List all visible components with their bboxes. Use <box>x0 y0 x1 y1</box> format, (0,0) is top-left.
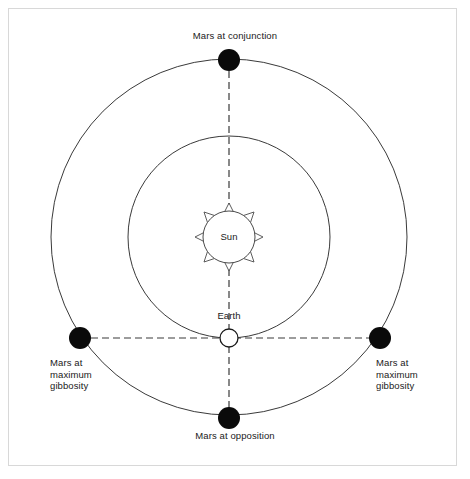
label-sun: Sun <box>200 231 258 243</box>
label-earth: Earth <box>200 310 258 322</box>
label-mars-at-maximum-gibbosity-left: Mars at maximum gibbosity <box>50 357 142 392</box>
earth-disc <box>220 329 238 347</box>
mars-gibbosity-left-disc <box>69 327 91 349</box>
mars-conjunction-disc <box>218 49 240 71</box>
label-mars-at-opposition: Mars at opposition <box>0 430 470 442</box>
label-mars-at-conjunction: Mars at conjunction <box>0 30 470 42</box>
mars-opposition-disc <box>218 407 240 429</box>
diagram-canvas: Mars at conjunction Mars at opposition M… <box>0 0 470 479</box>
label-mars-at-maximum-gibbosity-right: Mars at maximum gibbosity <box>376 357 468 392</box>
mars-gibbosity-right-disc <box>369 327 391 349</box>
